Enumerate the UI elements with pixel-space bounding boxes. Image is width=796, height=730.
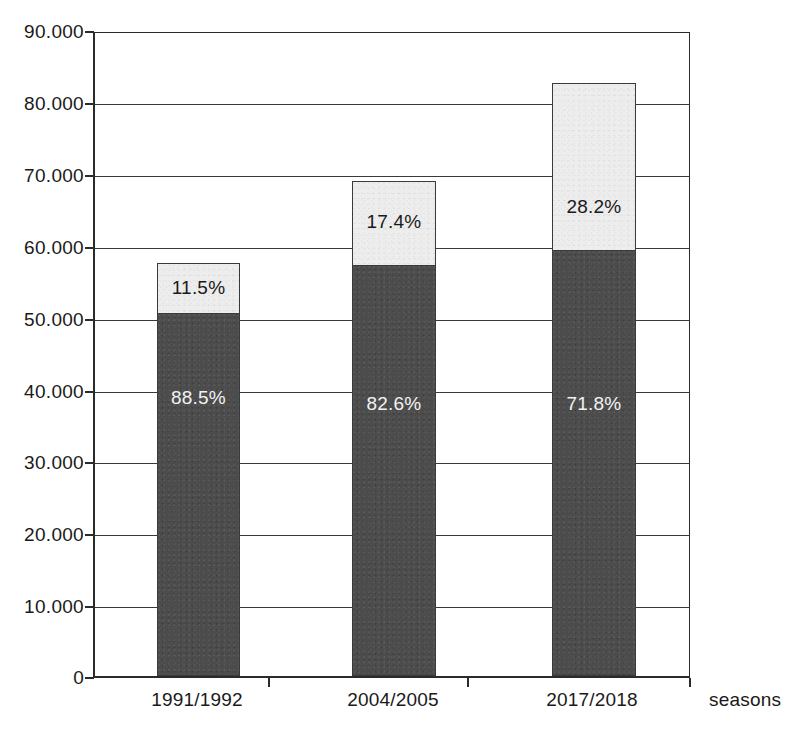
bar-2004-2005-upper-segment: 17.4% bbox=[353, 182, 435, 266]
x-tick-label-1991-1992: 1991/1992 bbox=[151, 689, 243, 711]
bar-2017-2018[interactable]: 28.2% 71.8% bbox=[552, 83, 636, 676]
x-tick-mark-3 bbox=[689, 678, 691, 687]
y-axis-label-group: 90.000 80.000 70.000 60.000 50.000 40.00… bbox=[0, 0, 84, 730]
bar-2017-2018-upper-segment: 28.2% bbox=[553, 84, 635, 251]
bar-1991-1992[interactable]: 11.5% 88.5% bbox=[157, 263, 240, 676]
bar-2017-2018-lower-label: 71.8% bbox=[567, 393, 622, 415]
y-tick-label-60000: 60.000 bbox=[24, 237, 84, 259]
bar-2017-2018-upper-label: 28.2% bbox=[567, 196, 622, 218]
x-axis-title: seasons bbox=[709, 689, 781, 711]
y-tick-label-90000: 90.000 bbox=[24, 21, 84, 43]
x-tick-label-2017-2018: 2017/2018 bbox=[546, 689, 638, 711]
y-tick-label-0: 0 bbox=[73, 667, 84, 689]
bar-2004-2005-upper-label: 17.4% bbox=[367, 211, 422, 233]
y-tick-label-80000: 80.000 bbox=[24, 93, 84, 115]
x-tick-mark-2 bbox=[467, 678, 469, 687]
bar-1991-1992-upper-label: 11.5% bbox=[172, 277, 225, 299]
y-tick-label-30000: 30.000 bbox=[24, 452, 84, 474]
bar-1991-1992-upper-segment: 11.5% bbox=[158, 264, 239, 314]
y-tick-label-50000: 50.000 bbox=[24, 309, 84, 331]
y-tick-label-40000: 40.000 bbox=[24, 381, 84, 403]
x-tick-mark-1 bbox=[268, 678, 270, 687]
bar-1991-1992-lower-label: 88.5% bbox=[171, 387, 226, 409]
y-tick-label-10000: 10.000 bbox=[24, 596, 84, 618]
y-tick-label-20000: 20.000 bbox=[24, 524, 84, 546]
y-tick-label-70000: 70.000 bbox=[24, 165, 84, 187]
stacked-bar-chart: 90.000 80.000 70.000 60.000 50.000 40.00… bbox=[0, 0, 796, 730]
bar-2004-2005[interactable]: 17.4% 82.6% bbox=[352, 181, 436, 676]
bar-1991-1992-lower-segment: 88.5% bbox=[158, 314, 239, 675]
bar-2004-2005-lower-segment: 82.6% bbox=[353, 266, 435, 675]
bar-2004-2005-lower-label: 82.6% bbox=[367, 393, 422, 415]
plot-area: 11.5% 88.5% 17.4% 82.6% 28.2% 71.8% bbox=[93, 32, 690, 678]
x-tick-label-2004-2005: 2004/2005 bbox=[347, 689, 439, 711]
bar-2017-2018-lower-segment: 71.8% bbox=[553, 251, 635, 675]
